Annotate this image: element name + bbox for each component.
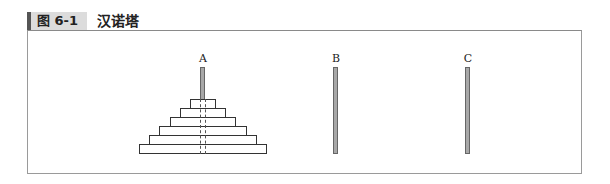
diagram-frame — [27, 30, 582, 174]
disk-2 — [180, 108, 226, 118]
disk-1 — [190, 99, 216, 109]
figure-title: 汉诺塔 — [87, 12, 139, 30]
figure-caption: 图 6-1 汉诺塔 — [27, 12, 139, 30]
disk-5 — [149, 135, 257, 145]
rod-a-hidden-left-edge — [200, 99, 201, 154]
rod-c — [465, 67, 470, 154]
figure-number: 图 6-1 — [31, 12, 87, 30]
disk-6 — [139, 144, 267, 154]
disk-3 — [170, 117, 236, 127]
rod-label-c: C — [464, 53, 472, 65]
rod-label-a: A — [199, 53, 207, 65]
rod-a-hidden-right-edge — [205, 99, 206, 154]
rod-b — [333, 67, 338, 154]
rod-label-b: B — [332, 53, 340, 65]
disk-4 — [159, 126, 247, 136]
